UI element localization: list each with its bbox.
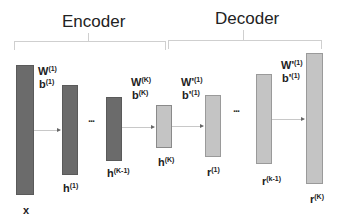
decoder-layer-rk-1 — [256, 74, 272, 164]
bias-label-bK: b(K) — [132, 87, 148, 101]
weight-label-w1: W(1) — [38, 63, 57, 77]
arrow-rk-1-to-rK — [272, 119, 304, 120]
node-label-r1: r(1) — [207, 164, 220, 178]
decoder-layer-r1 — [205, 95, 221, 157]
decoder-bracket-stem — [243, 30, 244, 40]
encoder-bracket-stem — [88, 33, 89, 41]
weight-label-wK: W(K) — [131, 74, 151, 88]
bias-label-b1: b(1) — [39, 76, 54, 90]
decoder-title: Decoder — [215, 9, 279, 29]
decoder-ellipsis: ... — [233, 102, 239, 114]
node-label-rK: r(K) — [310, 191, 324, 205]
hidden-layer-hK-1 — [106, 97, 122, 161]
decoder-bracket — [168, 40, 322, 49]
bias-label-b-prime-1: b'(1) — [182, 87, 200, 101]
encoder-bracket — [14, 41, 166, 50]
hidden-layer-h1 — [62, 85, 78, 175]
node-label-hK-1: h(K-1) — [107, 165, 130, 179]
encoder-ellipsis: ... — [88, 112, 94, 124]
weight-label-w-prime-1: W'(1) — [181, 74, 203, 88]
output-layer-rK — [306, 53, 323, 184]
arrow-hK-to-r1 — [172, 126, 203, 127]
node-label-rk-1: r(k-1) — [262, 173, 281, 187]
arrow-hK-1-to-hK — [122, 127, 154, 128]
input-layer-x — [16, 65, 34, 195]
encoder-title: Encoder — [62, 12, 125, 32]
node-label-hK: h(K) — [158, 154, 174, 168]
node-label-h1: h(1) — [63, 180, 78, 194]
arrow-x-to-h1 — [34, 130, 60, 131]
weight-label-w-prime-1-output: W'(1) — [281, 57, 303, 71]
node-label-x: x — [23, 204, 29, 216]
code-layer-hK — [156, 105, 172, 148]
bias-label-b-prime-1-output: b'(1) — [282, 70, 300, 84]
